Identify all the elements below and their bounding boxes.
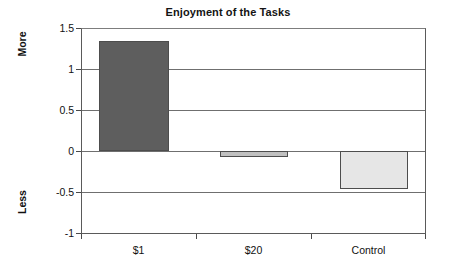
axis-annotation-less: Less [16, 174, 28, 230]
y-tick-label-neg-1: -1 [20, 228, 74, 238]
y-tick-label-0: 0 [20, 146, 74, 156]
bar-chart-figure: Enjoyment of the Tasks 1.5 1 0.5 0 -0.5 … [0, 0, 456, 272]
x-category-label-dollar-1: $1 [81, 244, 196, 256]
chart-title: Enjoyment of the Tasks [0, 6, 456, 18]
y-tick-label-0-5: 0.5 [20, 105, 74, 115]
axis-annotation-more: More [16, 16, 28, 72]
x-tick-mark-2 [311, 234, 312, 239]
gridline-neg-0-5 [82, 192, 425, 193]
x-tick-mark-0 [81, 234, 82, 239]
x-tick-mark-1 [196, 234, 197, 239]
bar-dollar-1[interactable] [99, 41, 169, 151]
y-tick-label-1-5: 1.5 [20, 23, 74, 33]
bar-control[interactable] [340, 151, 408, 189]
plot-area [81, 28, 426, 234]
y-tick-label-1: 1 [20, 64, 74, 74]
x-category-label-control: Control [311, 244, 426, 256]
x-tick-mark-3 [425, 234, 426, 239]
x-category-label-dollar-20: $20 [196, 244, 311, 256]
bar-dollar-20[interactable] [220, 151, 288, 157]
y-tick-label-neg-0-5: -0.5 [20, 187, 74, 197]
